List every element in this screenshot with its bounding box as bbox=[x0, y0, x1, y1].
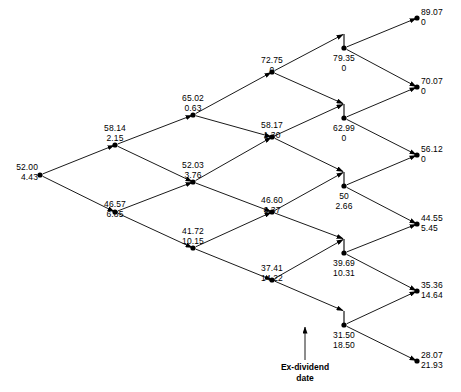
tree-edge bbox=[347, 87, 416, 116]
ex-dividend-annotation-line2: date bbox=[296, 373, 313, 383]
ex-dividend-annotation: Ex-dividend date bbox=[255, 362, 355, 383]
tree-edge bbox=[347, 18, 416, 46]
tree-edge bbox=[275, 281, 343, 310]
tree-edge bbox=[347, 291, 416, 323]
node-option-value: 10.15 bbox=[163, 236, 223, 246]
node-stock-price: 41.72 bbox=[163, 226, 223, 236]
tree-node-label: 58.142.15 bbox=[85, 123, 145, 143]
node-option-value: 18.50 bbox=[314, 340, 374, 350]
node-option-value: 0 bbox=[314, 133, 374, 143]
node-option-value: 14.64 bbox=[421, 290, 443, 300]
tree-node-label: 56.120 bbox=[421, 144, 443, 164]
tree-node-label: 52.004.43 bbox=[0, 162, 38, 182]
tree-node-dot[interactable] bbox=[414, 15, 419, 20]
tree-node-label: 46.606.37 bbox=[242, 195, 302, 215]
tree-node-dot[interactable] bbox=[341, 250, 346, 255]
node-option-value: 6.85 bbox=[85, 209, 145, 219]
node-option-value: 2.15 bbox=[85, 133, 145, 143]
node-stock-price: 39.69 bbox=[314, 258, 374, 268]
tree-node-label: 502.66 bbox=[314, 191, 374, 211]
node-option-value: 4.43 bbox=[0, 172, 38, 182]
tree-node-dot[interactable] bbox=[414, 221, 419, 226]
node-stock-price: 46.60 bbox=[242, 195, 302, 205]
tree-node-dot[interactable] bbox=[112, 142, 117, 147]
tree-node-label: 58.171.30 bbox=[242, 120, 302, 140]
binomial-tree-diagram: 52.004.4358.142.1546.576.8565.020.6352.0… bbox=[0, 0, 461, 392]
tree-node-label: 70.070 bbox=[421, 76, 443, 96]
tree-edges-canvas bbox=[0, 0, 461, 392]
node-stock-price: 62.99 bbox=[314, 123, 374, 133]
node-option-value: 2.66 bbox=[314, 201, 374, 211]
tree-node-label: 37.4114.22 bbox=[242, 263, 302, 283]
node-stock-price: 35.36 bbox=[421, 280, 443, 290]
tree-node-label: 52.033.76 bbox=[163, 160, 223, 180]
tree-node-label: 65.020.63 bbox=[163, 93, 223, 113]
tree-edge bbox=[347, 224, 416, 252]
node-stock-price: 37.41 bbox=[242, 263, 302, 273]
tree-edge bbox=[275, 138, 343, 171]
tree-node-dot[interactable] bbox=[37, 172, 42, 177]
node-option-value: 0 bbox=[421, 86, 443, 96]
tree-node-dot[interactable] bbox=[414, 84, 419, 89]
node-stock-price: 56.12 bbox=[421, 144, 443, 154]
tree-node-label: 35.3614.64 bbox=[421, 280, 443, 300]
tree-node-label: 62.990 bbox=[314, 123, 374, 143]
tree-node-dot[interactable] bbox=[341, 322, 346, 327]
tree-edge bbox=[347, 155, 416, 184]
tree-node-label: 28.0721.93 bbox=[421, 350, 443, 370]
node-option-value: 0.63 bbox=[163, 103, 223, 113]
tree-node-label: 44.555.45 bbox=[421, 213, 443, 233]
node-option-value: 0 bbox=[421, 154, 443, 164]
node-option-value: 1.30 bbox=[242, 130, 302, 140]
node-stock-price: 44.55 bbox=[421, 213, 443, 223]
tree-node-dot[interactable] bbox=[341, 45, 346, 50]
node-option-value: 21.93 bbox=[421, 360, 443, 370]
node-stock-price: 31.50 bbox=[314, 330, 374, 340]
node-stock-price: 58.17 bbox=[242, 120, 302, 130]
node-stock-price: 65.02 bbox=[163, 93, 223, 103]
tree-node-label: 31.5018.50 bbox=[314, 330, 374, 350]
node-option-value: 3.76 bbox=[163, 170, 223, 180]
tree-node-dot[interactable] bbox=[190, 112, 195, 117]
tree-node-dot[interactable] bbox=[414, 152, 419, 157]
tree-node-label: 41.7210.15 bbox=[163, 226, 223, 246]
tree-node-label: 39.6910.31 bbox=[314, 258, 374, 278]
tree-node-label: 72.750 bbox=[242, 55, 302, 75]
tree-node-dot[interactable] bbox=[341, 115, 346, 120]
node-option-value: 14.22 bbox=[242, 273, 302, 283]
tree-node-dot[interactable] bbox=[341, 183, 346, 188]
tree-node-dot[interactable] bbox=[414, 358, 419, 363]
tree-node-label: 46.576.85 bbox=[85, 199, 145, 219]
node-stock-price: 70.07 bbox=[421, 76, 443, 86]
node-option-value: 5.45 bbox=[421, 223, 443, 233]
node-option-value: 0 bbox=[421, 17, 443, 27]
node-option-value: 6.37 bbox=[242, 205, 302, 215]
node-stock-price: 46.57 bbox=[85, 199, 145, 209]
node-stock-price: 50 bbox=[314, 191, 374, 201]
node-stock-price: 79.35 bbox=[314, 53, 374, 63]
node-stock-price: 58.14 bbox=[85, 123, 145, 133]
tree-node-dot[interactable] bbox=[414, 288, 419, 293]
tree-node-label: 79.350 bbox=[314, 53, 374, 73]
node-stock-price: 52.03 bbox=[163, 160, 223, 170]
ex-dividend-annotation-line1: Ex-dividend bbox=[281, 362, 329, 372]
tree-edge bbox=[275, 73, 343, 103]
node-stock-price: 28.07 bbox=[421, 350, 443, 360]
tree-node-label: 89.070 bbox=[421, 7, 443, 27]
node-option-value: 0 bbox=[242, 65, 302, 75]
node-stock-price: 52.00 bbox=[0, 162, 38, 172]
tree-node-dot[interactable] bbox=[190, 245, 195, 250]
node-option-value: 0 bbox=[314, 63, 374, 73]
tree-node-dot[interactable] bbox=[190, 179, 195, 184]
node-option-value: 10.31 bbox=[314, 268, 374, 278]
tree-edge bbox=[43, 145, 114, 174]
node-stock-price: 89.07 bbox=[421, 7, 443, 17]
tree-edge bbox=[275, 213, 343, 239]
node-stock-price: 72.75 bbox=[242, 55, 302, 65]
